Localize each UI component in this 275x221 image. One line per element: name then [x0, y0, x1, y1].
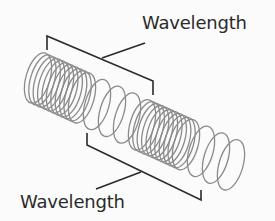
top-leader-line [102, 43, 145, 58]
coil-loop [182, 123, 220, 180]
wavelength-diagram: Wavelength Wavelength [0, 0, 275, 221]
coil-loop [78, 76, 116, 133]
coil-loop [197, 130, 235, 187]
top-wavelength-label: Wavelength [142, 12, 247, 33]
bottom-wavelength-label: Wavelength [20, 191, 125, 212]
coil-loop [108, 90, 146, 147]
bottom-leader-line [96, 172, 141, 189]
coil-loop [212, 136, 250, 193]
spring-coils [19, 50, 250, 193]
coil-loop [93, 83, 131, 140]
spring-illustration [0, 0, 275, 221]
